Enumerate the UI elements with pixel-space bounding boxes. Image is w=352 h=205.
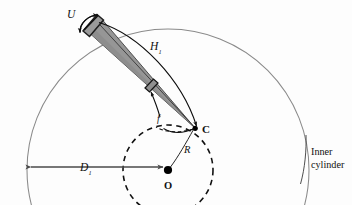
dashed-circle — [123, 125, 213, 205]
geometry-figure: U H 1 f C R O D 1 Inner cylinder — [0, 0, 352, 205]
inner-cylinder-arc — [27, 29, 309, 205]
label-d1-group: D 1 — [79, 161, 92, 176]
label-inner-cylinder-line1: Inner — [311, 146, 333, 157]
label-inner-cylinder-group: Inner cylinder — [311, 146, 345, 170]
point-c-group — [193, 126, 198, 131]
inner-cylinder-callout-group — [301, 135, 307, 184]
label-o: O — [164, 180, 172, 191]
label-h1-group: H 1 — [149, 40, 162, 55]
label-angle: f — [157, 114, 161, 124]
label-h1: H — [149, 40, 159, 52]
dashed-circle-group — [123, 125, 213, 205]
label-d1: D — [79, 161, 89, 173]
inner-cylinder-arc-group — [27, 29, 309, 205]
diagram-canvas: U H 1 f C R O D 1 Inner cylinder — [0, 0, 352, 205]
beam-wedge — [86, 17, 196, 129]
label-r: R — [183, 144, 191, 155]
label-inner-cylinder-line2: cylinder — [311, 159, 345, 170]
beam-wedge-shade — [86, 25, 196, 129]
beam-center-ray — [95, 20, 195, 129]
label-u: U — [67, 8, 76, 20]
inner-cylinder-callout-line — [301, 135, 307, 184]
label-h1-subscript: 1 — [159, 48, 162, 55]
point-c-marker — [193, 126, 198, 131]
label-d1-subscript: 1 — [89, 169, 92, 176]
beam-wedge-group — [86, 17, 196, 129]
label-c: C — [202, 123, 210, 135]
